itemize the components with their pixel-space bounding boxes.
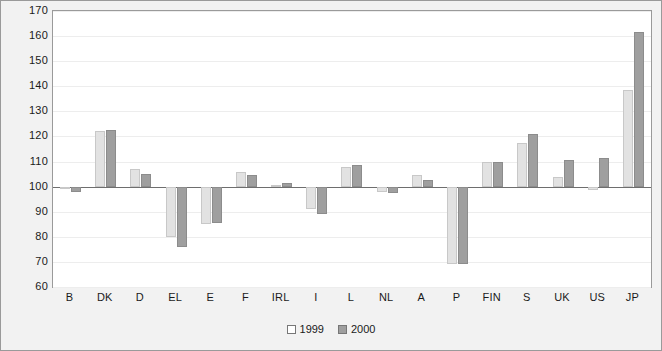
bar-A-2000 <box>423 180 433 186</box>
x-axis-tick-label-UK: UK <box>554 291 570 303</box>
x-axis-tick-label-US: US <box>589 291 605 303</box>
bar-group <box>440 11 475 287</box>
bar-DK-2000 <box>106 130 116 186</box>
x-axis-tick-label-EL: EL <box>168 291 182 303</box>
y-axis-tick-label: 70 <box>1 256 48 267</box>
x-axis-tick-label-A: A <box>418 291 426 303</box>
plot-area <box>52 10 652 288</box>
bar-E-1999 <box>201 187 211 225</box>
bar-group <box>229 11 264 287</box>
x-axis-tick-label-DK: DK <box>97 291 113 303</box>
x-axis-tick-label-FIN: FIN <box>483 291 501 303</box>
bar-EL-1999 <box>166 187 176 237</box>
x-axis-tick-label-S: S <box>523 291 531 303</box>
bar-L-1999 <box>341 167 351 187</box>
legend-item-1999[interactable]: 1999 <box>287 323 324 335</box>
bar-chart: 17016015014013012011010090807060 BDKDELE… <box>0 0 662 351</box>
bar-S-1999 <box>517 143 527 187</box>
y-axis-tick-label: 140 <box>1 80 48 91</box>
x-axis-tick-label-B: B <box>66 291 74 303</box>
bar-NL-2000 <box>388 187 398 193</box>
bar-UK-2000 <box>564 160 574 186</box>
bar-group <box>510 11 545 287</box>
bar-EL-2000 <box>177 187 187 247</box>
x-axis-tick-label-F: F <box>242 291 249 303</box>
bar-group <box>264 11 299 287</box>
bar-IRL-1999 <box>271 185 281 187</box>
bar-group <box>545 11 580 287</box>
legend-swatch-1999-icon <box>287 325 296 334</box>
x-axis-tick-label-IRL: IRL <box>272 291 290 303</box>
bar-F-1999 <box>236 172 246 187</box>
bar-group <box>88 11 123 287</box>
bar-group <box>299 11 334 287</box>
y-axis: 17016015014013012011010090807060 <box>1 10 48 288</box>
gridline <box>53 287 651 288</box>
bar-group <box>123 11 158 287</box>
bar-NL-1999 <box>377 187 387 192</box>
y-axis-tick-label: 60 <box>1 281 48 292</box>
x-axis-tick-label-E: E <box>207 291 215 303</box>
bar-A-1999 <box>412 175 422 186</box>
y-axis-tick-label: 170 <box>1 5 48 16</box>
bar-group <box>405 11 440 287</box>
x-axis-tick-label-D: D <box>136 291 144 303</box>
x-axis-tick-label-JP: JP <box>626 291 639 303</box>
y-axis-tick-label: 80 <box>1 231 48 242</box>
legend-swatch-2000-icon <box>338 325 347 334</box>
bar-D-2000 <box>141 174 151 187</box>
bar-group <box>334 11 369 287</box>
x-axis-tick-label-I: I <box>314 291 317 303</box>
bar-E-2000 <box>212 187 222 223</box>
x-axis: BDKDELEFIRLILNLAPFINSUKUSJP <box>52 291 652 311</box>
bar-US-2000 <box>599 158 609 187</box>
bar-group <box>616 11 651 287</box>
y-axis-tick-label: 150 <box>1 55 48 66</box>
bar-group <box>159 11 194 287</box>
bar-P-1999 <box>447 187 457 265</box>
bar-L-2000 <box>352 165 362 186</box>
bar-group <box>53 11 88 287</box>
y-axis-tick-label: 120 <box>1 130 48 141</box>
bar-JP-2000 <box>634 32 644 186</box>
x-axis-tick-label-P: P <box>453 291 461 303</box>
bar-DK-1999 <box>95 131 105 186</box>
bar-FIN-2000 <box>493 162 503 187</box>
bar-D-1999 <box>130 169 140 187</box>
bar-I-1999 <box>306 187 316 210</box>
y-axis-tick-label: 130 <box>1 105 48 116</box>
legend-label-1999: 1999 <box>300 323 324 335</box>
bar-group <box>475 11 510 287</box>
x-axis-tick-label-L: L <box>348 291 354 303</box>
bar-JP-1999 <box>623 90 633 187</box>
bar-IRL-2000 <box>282 183 292 187</box>
bar-B-1999 <box>60 187 70 190</box>
y-axis-tick-label: 90 <box>1 206 48 217</box>
y-axis-tick-label: 110 <box>1 156 48 167</box>
bar-group <box>581 11 616 287</box>
legend-item-2000[interactable]: 2000 <box>338 323 375 335</box>
bar-F-2000 <box>247 175 257 186</box>
bar-UK-1999 <box>553 177 563 187</box>
bar-B-2000 <box>71 187 81 192</box>
bar-group <box>194 11 229 287</box>
y-axis-tick-label: 100 <box>1 181 48 192</box>
bar-I-2000 <box>317 187 327 215</box>
bar-P-2000 <box>458 187 468 265</box>
bars-layer <box>53 11 651 287</box>
bar-US-1999 <box>588 187 598 191</box>
chart-legend: 1999 2000 <box>1 323 661 335</box>
y-axis-tick-label: 160 <box>1 30 48 41</box>
x-axis-tick-label-NL: NL <box>379 291 393 303</box>
bar-FIN-1999 <box>482 162 492 187</box>
bar-S-2000 <box>528 134 538 187</box>
bar-group <box>370 11 405 287</box>
legend-label-2000: 2000 <box>351 323 375 335</box>
